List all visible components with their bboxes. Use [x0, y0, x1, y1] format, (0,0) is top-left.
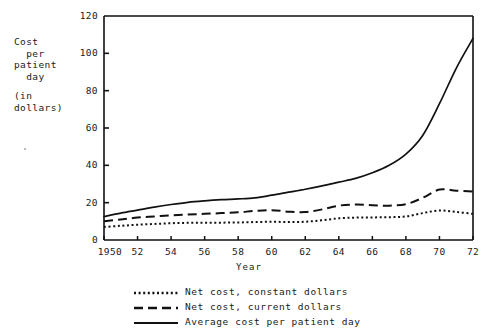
legend-item: Net cost, constant dollars [133, 284, 433, 299]
legend-swatch-dotted [133, 286, 179, 298]
legend-label: Net cost, current dollars [185, 301, 342, 312]
series-line-dashed [104, 189, 473, 221]
legend-item: Average cost per patient day [133, 314, 433, 329]
y-tick-label: 0 [60, 234, 98, 245]
legend-label: Net cost, constant dollars [185, 286, 348, 297]
legend-item: Net cost, current dollars [133, 299, 433, 314]
data-series-group [104, 38, 473, 227]
y-tick-label: 60 [60, 122, 98, 133]
chart-figure: Cost per patient day (in dollars) 020406… [0, 0, 498, 331]
y-axis-title-units: (in dollars) [14, 90, 63, 113]
x-tick-label: 72 [453, 246, 493, 257]
y-axis-title-primary: Cost per patient day [14, 36, 57, 82]
legend-swatch-solid [133, 316, 179, 328]
legend-label: Average cost per patient day [185, 316, 361, 327]
legend-swatch-dashed [133, 301, 179, 313]
y-tick-label: 120 [60, 10, 98, 21]
series-line-solid [104, 38, 473, 216]
series-line-dotted [104, 210, 473, 226]
y-tick-label: 20 [60, 197, 98, 208]
x-axis-title: Year [0, 262, 498, 272]
y-tick-label: 80 [60, 85, 98, 96]
y-tick-label: 40 [60, 159, 98, 170]
chart-legend: Net cost, constant dollarsNet cost, curr… [133, 284, 433, 329]
scan-artifact [24, 148, 26, 150]
y-tick-label: 100 [60, 47, 98, 58]
